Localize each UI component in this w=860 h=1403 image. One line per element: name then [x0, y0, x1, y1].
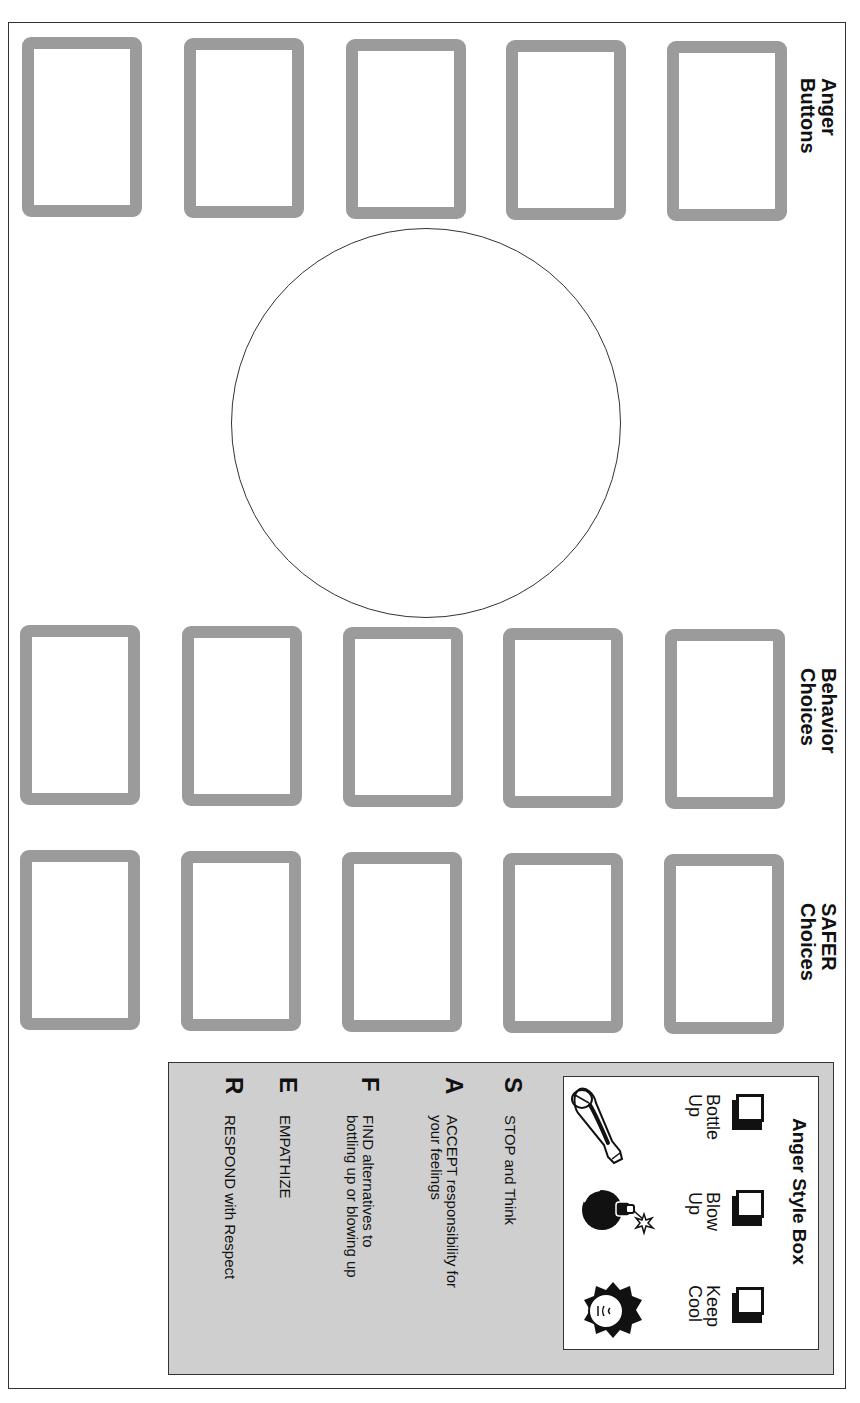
keep-cool-label: Keep Cool: [686, 1285, 722, 1327]
safer-choices-label: SAFER Choices: [797, 903, 839, 981]
safer-step-f-line1: FIND alternatives to: [360, 1115, 376, 1278]
anger-button-card-2[interactable]: [184, 38, 304, 218]
behavior-choice-card-4[interactable]: [503, 628, 623, 808]
safer-step-s-line1: STOP and Think: [502, 1115, 518, 1225]
anger-buttons-label-line1: Anger: [818, 78, 839, 154]
center-circle[interactable]: [231, 228, 621, 618]
safer-step-a-line2: your feelings: [428, 1115, 444, 1288]
safer-choices-label-line1: SAFER: [818, 903, 839, 981]
safer-letter-a: A: [441, 1077, 468, 1094]
anger-buttons-label: Anger Buttons: [797, 78, 839, 154]
anger-button-card-5[interactable]: [667, 41, 787, 221]
safer-choice-card-5[interactable]: [664, 854, 784, 1034]
bottle-up-checkbox[interactable]: [732, 1094, 768, 1130]
bomb-icon: [578, 1180, 658, 1250]
checkbox-face: [736, 1094, 764, 1122]
safer-step-a-text: ACCEPT responsibility for your feelings: [428, 1115, 460, 1288]
cool-face-icon: [582, 1280, 644, 1342]
safer-choice-card-1[interactable]: [20, 850, 140, 1030]
anger-style-box-title: Anger Style Box: [788, 1118, 810, 1265]
anger-button-card-3[interactable]: [346, 39, 466, 219]
safer-step-r-line1: RESPOND with Respect: [222, 1115, 238, 1279]
keep-cool-label-line1: Keep: [704, 1285, 722, 1327]
safer-choice-card-3[interactable]: [342, 852, 462, 1032]
safer-step-r: R: [222, 1077, 246, 1094]
keep-cool-checkbox[interactable]: [732, 1287, 768, 1323]
safer-step-e-text: EMPATHIZE: [277, 1115, 293, 1199]
safer-choice-card-2[interactable]: [181, 851, 301, 1031]
blow-up-checkbox[interactable]: [732, 1190, 768, 1226]
safer-step-s: S: [501, 1077, 525, 1093]
behavior-choice-card-5[interactable]: [665, 629, 785, 809]
checkbox-face: [736, 1287, 764, 1315]
safer-choice-card-4[interactable]: [503, 853, 623, 1033]
behavior-choices-label: Behavior Choices: [797, 668, 839, 754]
bottle-up-label-line1: Bottle: [704, 1094, 722, 1140]
bottle-up-label-line2: Up: [686, 1094, 704, 1140]
anger-button-card-1[interactable]: [22, 37, 142, 217]
checkbox-face: [736, 1190, 764, 1218]
blow-up-label: Blow Up: [686, 1192, 722, 1231]
behavior-choices-label-line1: Behavior: [818, 668, 839, 754]
safer-letter-r: R: [221, 1077, 248, 1094]
safer-letter-e: E: [275, 1077, 302, 1093]
safer-step-r-text: RESPOND with Respect: [222, 1115, 238, 1279]
safer-letter-f: F: [357, 1077, 384, 1092]
blow-up-label-line2: Up: [686, 1192, 704, 1231]
safer-step-a-line1: ACCEPT responsibility for: [444, 1115, 460, 1288]
safer-step-f-line2: bottling up or blowing up: [344, 1115, 360, 1278]
behavior-choices-label-line2: Choices: [797, 668, 818, 754]
keep-cool-label-line2: Cool: [686, 1285, 704, 1327]
blow-up-label-line1: Blow: [704, 1192, 722, 1231]
behavior-choice-card-2[interactable]: [182, 626, 302, 806]
anger-button-card-4[interactable]: [506, 40, 626, 220]
safer-step-f: F: [358, 1077, 382, 1092]
safer-step-f-text: FIND alternatives to bottling up or blow…: [344, 1115, 376, 1278]
safer-letter-s: S: [500, 1077, 527, 1093]
anger-buttons-label-line2: Buttons: [797, 78, 818, 154]
bottle-up-label: Bottle Up: [686, 1094, 722, 1140]
safer-step-e-line1: EMPATHIZE: [277, 1115, 293, 1199]
safer-step-s-text: STOP and Think: [502, 1115, 518, 1225]
bottle-icon: [568, 1085, 630, 1175]
safer-choices-label-line2: Choices: [797, 903, 818, 981]
safer-step-a: A: [442, 1077, 466, 1094]
safer-step-e: E: [276, 1077, 300, 1093]
behavior-choice-card-1[interactable]: [20, 625, 140, 805]
behavior-choice-card-3[interactable]: [343, 627, 463, 807]
